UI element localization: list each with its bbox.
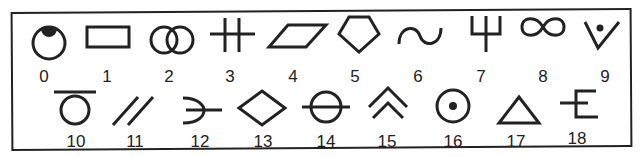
sine-wave-icon [396, 20, 444, 52]
two-overlapping-circles-icon [148, 22, 196, 58]
symbol-label: 1 [87, 68, 127, 85]
diamond-icon [236, 88, 288, 128]
symbol-label: 7 [461, 68, 501, 85]
triangle-icon [496, 94, 542, 126]
double-cross-icon [207, 16, 257, 56]
symbol-label: 14 [306, 133, 346, 150]
circle-with-center-dot-icon [434, 87, 472, 125]
symbol-label: 3 [210, 68, 250, 85]
symbol-label: 5 [335, 68, 375, 85]
double-slash-icon [110, 94, 156, 128]
symbol-label: 0 [24, 68, 64, 85]
epsilon-with-line-icon [558, 88, 600, 120]
v-with-dot-icon [582, 18, 622, 52]
infinity-icon [519, 14, 567, 40]
symbol-label: 9 [585, 68, 625, 85]
symbol-label: 18 [557, 130, 597, 147]
symbol-label: 2 [149, 68, 189, 85]
parallelogram-icon [266, 22, 330, 50]
circle-with-horizontal-line-icon [300, 89, 352, 125]
symbol-label: 6 [398, 68, 438, 85]
symbol-label: 15 [367, 133, 407, 150]
symbol-label: 8 [523, 68, 563, 85]
rectangle-icon [84, 24, 132, 50]
symbol-label: 17 [496, 133, 536, 150]
circle-with-bar-above-icon [52, 89, 98, 129]
pentagon-icon [336, 14, 382, 56]
symbol-label: 12 [180, 133, 220, 150]
trident-icon [469, 14, 503, 54]
double-chevron-up-icon [366, 85, 410, 121]
symbol-label: 16 [433, 133, 473, 150]
open-arc-with-line-icon [180, 95, 224, 127]
symbol-label: 13 [243, 133, 283, 150]
symbol-label: 4 [273, 68, 313, 85]
symbol-label: 10 [56, 133, 96, 150]
circle-with-filled-top-cap-icon [27, 22, 71, 62]
symbol-label: 11 [115, 133, 155, 150]
